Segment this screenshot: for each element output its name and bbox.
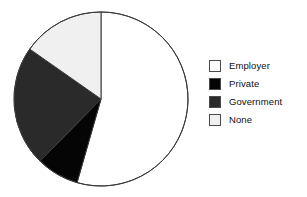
legend-label-private: Private (229, 78, 259, 89)
legend-swatch-none (209, 114, 221, 126)
pie-plot-area (0, 0, 200, 197)
legend-item-private: Private (209, 76, 305, 91)
legend-swatch-private (209, 78, 221, 90)
pie-svg (0, 0, 200, 197)
pie-chart-figure: Employer Private Government None (0, 0, 307, 197)
legend-label-government: Government (229, 96, 282, 107)
legend-swatch-employer (209, 60, 221, 72)
legend-item-none: None (209, 112, 305, 127)
legend-swatch-government (209, 96, 221, 108)
legend-item-government: Government (209, 94, 305, 109)
legend-label-employer: Employer (229, 60, 270, 71)
legend-item-employer: Employer (209, 58, 305, 73)
chart-legend: Employer Private Government None (209, 58, 305, 127)
legend-label-none: None (229, 114, 252, 125)
pie-slice-group (14, 12, 188, 186)
